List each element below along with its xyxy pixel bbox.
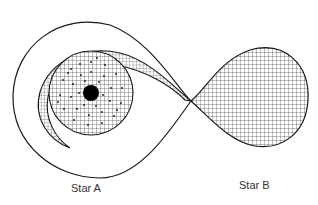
binary-star-diagram xyxy=(0,0,318,205)
star-b-roche-lobe xyxy=(191,48,308,147)
star-b-label: Star B xyxy=(239,179,270,191)
compact-object xyxy=(83,85,99,101)
star-a-label: Star A xyxy=(71,182,101,194)
